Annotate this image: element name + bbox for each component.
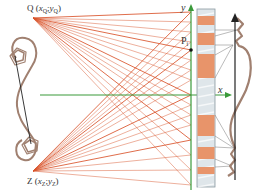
label-point-q: Q (xQ;yQ) — [27, 4, 61, 14]
right-vertical-curve — [228, 18, 251, 176]
ray-line — [33, 125, 191, 171]
ray-line — [33, 18, 191, 60]
strip-orange-segment — [198, 33, 215, 45]
strip-orange-segment — [198, 147, 215, 159]
ray-line — [33, 18, 191, 80]
ray-line — [33, 18, 191, 115]
diagram-canvas — [0, 0, 254, 192]
strip-orange-segment — [198, 16, 215, 25]
strip-orange-segment — [198, 54, 215, 78]
point-p-marker — [189, 48, 193, 52]
label-x-axis: x — [218, 85, 222, 95]
ray-line — [33, 32, 191, 171]
rays-from-z — [33, 12, 191, 185]
ray-line — [33, 115, 191, 171]
ray-line — [33, 170, 191, 171]
ray-line — [33, 50, 191, 171]
detector-strip — [197, 9, 215, 187]
label-point-z: Z (xZ;yZ) — [27, 177, 59, 187]
ray-line — [33, 60, 191, 171]
strip-orange-segment — [198, 115, 215, 136]
label-y-axis: y — [181, 3, 185, 13]
strip-orange-segment — [198, 167, 215, 174]
ray-line — [33, 105, 191, 171]
y-axis-arrow-icon — [188, 4, 194, 11]
ray-line — [33, 22, 191, 171]
left-spiral-curve — [10, 38, 38, 160]
ray-line — [33, 18, 191, 95]
x-axis-arrow-icon — [225, 92, 232, 98]
ray-line — [33, 140, 191, 171]
label-point-p: Pi — [181, 36, 188, 47]
